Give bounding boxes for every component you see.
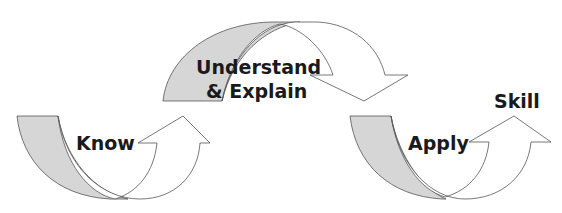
learning-progression-diagram [0, 0, 562, 213]
understand-label-line1: Understand [196, 56, 321, 78]
apply-label: Apply [408, 132, 469, 154]
apply-arrow [350, 116, 551, 199]
understand-label-line2: & Explain [206, 80, 307, 102]
know-label: Know [76, 132, 135, 154]
apply-arrow-tail-shading [350, 116, 446, 199]
know-arrow [17, 116, 210, 199]
skill-label: Skill [494, 90, 540, 112]
